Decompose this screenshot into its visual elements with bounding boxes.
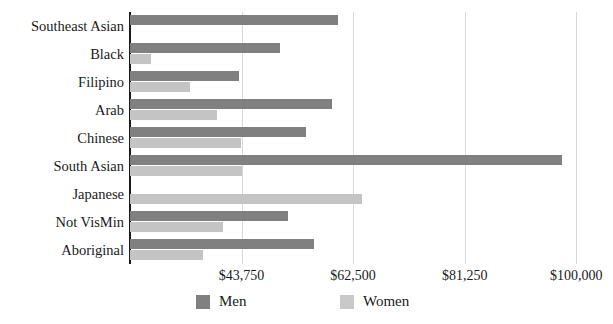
bar-women: [130, 82, 190, 92]
bar-men: [130, 155, 562, 165]
x-tick-label: $62,500: [330, 268, 376, 284]
gridline: [353, 12, 354, 264]
category-label: Arab: [0, 103, 124, 117]
legend-swatch-icon: [196, 295, 210, 309]
gridline: [576, 12, 577, 264]
legend-label: Men: [219, 294, 247, 309]
chart-legend: MenWomen: [0, 294, 613, 318]
legend-label: Women: [363, 294, 409, 309]
bar-women: [130, 222, 223, 232]
gridline: [465, 12, 466, 264]
category-label: Japanese: [0, 187, 124, 201]
bar-men: [130, 71, 239, 81]
bar-men: [130, 99, 332, 109]
bar-chart: Southeast AsianBlackFilipinoArabChineseS…: [0, 0, 613, 324]
bar-women: [130, 110, 217, 120]
legend-item-women[interactable]: Women: [340, 294, 409, 309]
legend-swatch-icon: [340, 295, 354, 309]
plot-area: [130, 12, 600, 264]
bar-women: [130, 138, 241, 148]
bar-men: [130, 15, 338, 25]
legend-item-men[interactable]: Men: [196, 294, 247, 309]
bar-men: [130, 43, 280, 53]
category-axis-labels: Southeast AsianBlackFilipinoArabChineseS…: [0, 12, 124, 264]
category-label: Black: [0, 47, 124, 61]
bar-men: [130, 239, 314, 249]
category-label: Southeast Asian: [0, 19, 124, 33]
category-label: South Asian: [0, 159, 124, 173]
category-label: Chinese: [0, 131, 124, 145]
bar-men: [130, 127, 306, 137]
bar-women: [130, 54, 151, 64]
bar-women: [130, 166, 242, 176]
bar-women: [130, 250, 203, 260]
category-label: Filipino: [0, 75, 124, 89]
category-label: Aboriginal: [0, 243, 124, 257]
x-axis-tick-labels: $43,750$62,500$81,250$100,000: [0, 268, 613, 290]
x-tick-label: $43,750: [219, 268, 265, 284]
x-tick-label: $81,250: [442, 268, 488, 284]
bar-men: [130, 211, 288, 221]
bar-women: [130, 194, 362, 204]
category-label: Not VisMin: [0, 215, 124, 229]
x-tick-label: $100,000: [550, 268, 603, 284]
